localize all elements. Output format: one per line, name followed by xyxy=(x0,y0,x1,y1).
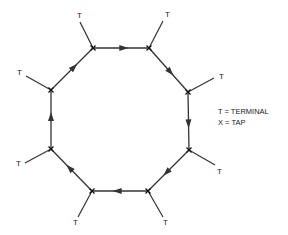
terminal-stub xyxy=(78,191,92,217)
flow-arrow-icon xyxy=(119,45,128,51)
terminal-stub xyxy=(25,149,51,163)
terminal-stub xyxy=(149,21,163,48)
terminal-stub xyxy=(26,76,51,90)
terminal-stub xyxy=(80,22,93,48)
terminal-stub xyxy=(148,191,163,217)
terminal-stub xyxy=(188,78,214,92)
terminal-label: T xyxy=(163,218,168,227)
flow-arrow-icon xyxy=(185,119,191,128)
terminal-label: T xyxy=(73,218,78,227)
terminal-label: T xyxy=(16,159,21,168)
terminal-stub xyxy=(189,150,215,165)
ring-edges xyxy=(48,45,191,194)
terminal-labels: TTTTTTTT xyxy=(16,10,224,227)
legend: T = TERMINAL X = TAP xyxy=(218,107,269,127)
diagram-canvas: TTTTTTTT T = TERMINAL X = TAP xyxy=(0,0,288,235)
terminal-label: T xyxy=(219,72,224,81)
ring-network-diagram: TTTTTTTT T = TERMINAL X = TAP xyxy=(0,0,288,235)
legend-terminal: T = TERMINAL xyxy=(218,107,269,116)
terminal-label: T xyxy=(77,11,82,20)
flow-arrow-icon xyxy=(113,188,122,194)
flow-arrow-icon xyxy=(48,112,54,121)
terminal-label: T xyxy=(17,68,22,77)
legend-tap: X = TAP xyxy=(218,118,245,127)
terminal-label: T xyxy=(165,10,170,19)
terminal-label: T xyxy=(217,167,222,176)
